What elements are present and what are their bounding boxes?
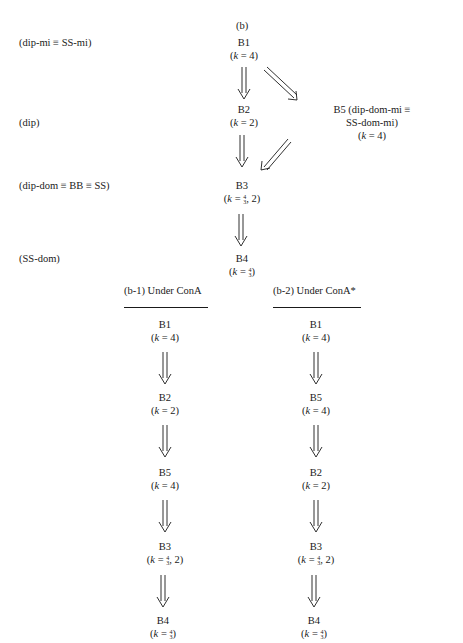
sub2-node-3: B2 (k = 2) [302,466,330,492]
node-b2: B2 (k = 2) [230,103,258,129]
node-b3: B3 (k = 43, 2) [224,179,260,205]
sub2-rule [273,307,361,308]
sub2-node-4: B3 (k = 43, 2) [298,540,334,566]
sub1-arrow-2 [159,425,171,457]
level-label-ss-dom: (SS-dom) [19,253,60,264]
node-b5: B5 (dip-dom-mi ≡ SS-dom-mi) (k = 4) [327,103,418,142]
sub1-node-2: B2 (k = 2) [151,391,179,417]
sub2-node-1: B1 (k = 4) [302,318,330,344]
panel-label: (b) [236,20,248,31]
sub1-arrow-1 [159,352,171,384]
level-label-dip: (dip) [19,117,39,128]
sub1-node-1: B1 (k = 4) [151,318,179,344]
sub1-node-3: B5 (k = 4) [151,466,179,492]
node-b1: B1 (k = 4) [230,36,258,62]
level-label-dip-dom: (dip-dom ≡ BB ≡ SS) [19,180,110,191]
sub1-title: (b-1) Under ConA [124,285,202,296]
sub1-arrow-3 [159,500,171,532]
node-b4: B4 (k = 43) [229,252,255,278]
arrow-b3-b4 [235,214,247,246]
sub1-node-5: B4 (k = 43) [150,614,176,640]
arrow-b2-b3 [236,135,248,167]
arrows-layer [0,0,463,643]
arrow-b5-b3 [261,139,291,170]
sub2-arrow-3 [310,500,322,532]
sub2-node-5: B4 (k = 43) [301,614,327,640]
level-label-dip-mi: (dip-mi ≡ SS-mi) [19,37,91,48]
sub1-rule [124,307,208,308]
sub1-arrow-4 [157,575,169,607]
arrow-b1-b5 [264,67,297,100]
sub1-node-4: B3 (k = 43, 2) [147,540,183,566]
sub2-arrow-2 [310,425,322,457]
sub2-title: (b-2) Under ConA* [273,285,356,296]
sub2-node-2: B5 (k = 4) [302,391,330,417]
arrow-b1-b2 [238,67,250,99]
sub2-arrow-1 [310,352,322,384]
sub2-arrow-4 [308,575,320,607]
